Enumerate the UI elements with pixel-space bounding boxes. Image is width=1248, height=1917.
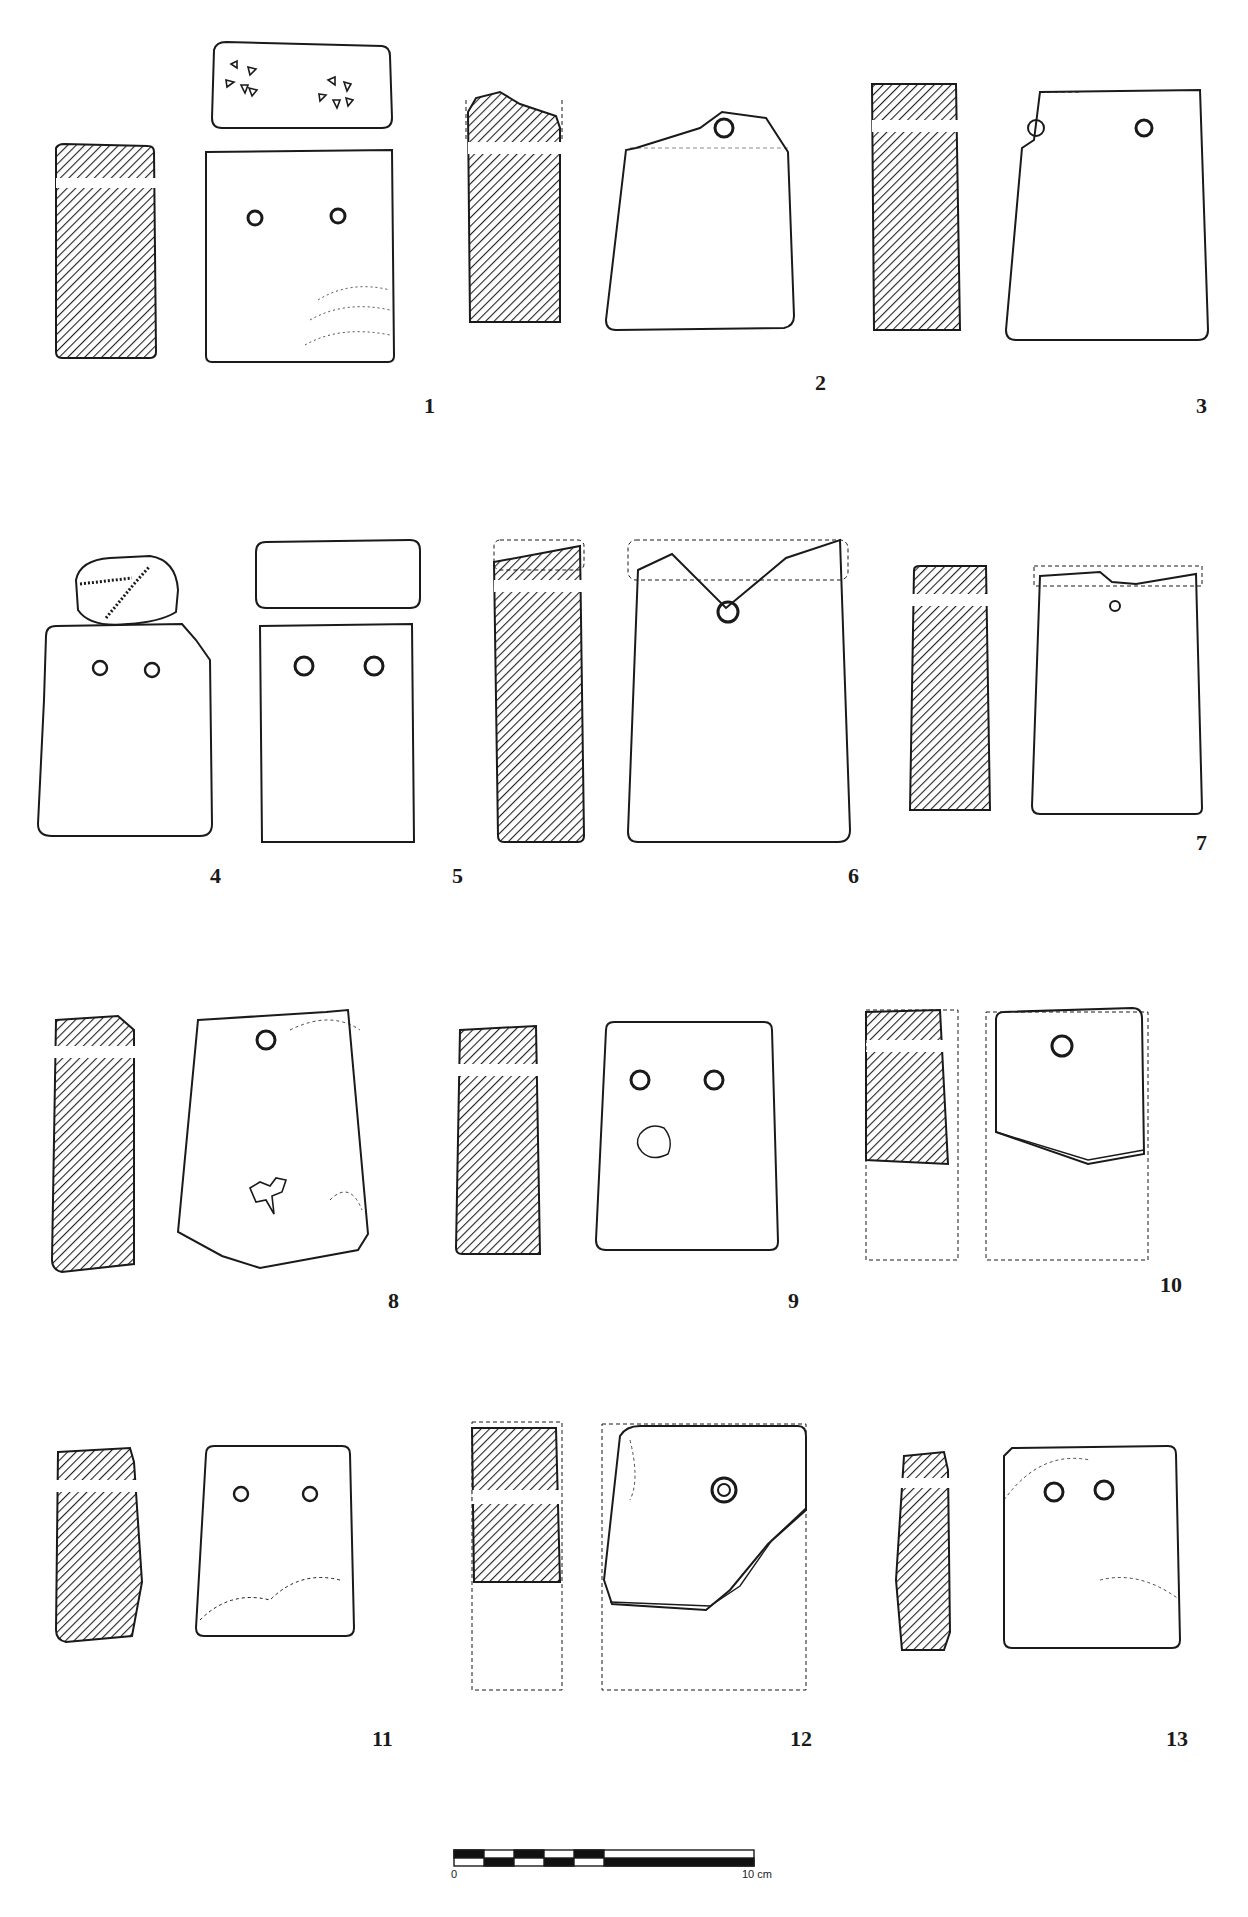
label-object-3: 3 — [1196, 393, 1207, 419]
label-object-11: 11 — [372, 1726, 393, 1752]
scale-start-label: 0 — [451, 1868, 457, 1880]
object-8 — [52, 1010, 368, 1272]
object-2 — [466, 92, 794, 330]
object-11 — [56, 1446, 354, 1642]
label-object-8: 8 — [388, 1288, 399, 1314]
object-13 — [896, 1446, 1180, 1650]
label-object-7: 7 — [1196, 830, 1207, 856]
label-object-9: 9 — [788, 1288, 799, 1314]
label-object-10: 10 — [1160, 1272, 1182, 1298]
label-object-13: 13 — [1166, 1726, 1188, 1752]
label-object-6: 6 — [848, 863, 859, 889]
scale-end-label: 10 cm — [742, 1868, 772, 1880]
label-object-4: 4 — [210, 863, 221, 889]
object-9 — [456, 1022, 778, 1254]
object-5 — [256, 540, 420, 842]
object-1 — [56, 42, 394, 362]
object-12 — [472, 1422, 806, 1690]
label-object-2: 2 — [815, 370, 826, 396]
object-3 — [872, 84, 1208, 340]
label-object-1: 1 — [424, 393, 435, 419]
label-object-5: 5 — [452, 863, 463, 889]
label-object-12: 12 — [790, 1726, 812, 1752]
object-7 — [910, 566, 1202, 814]
scale-bar — [454, 1850, 754, 1866]
plate-drawing — [0, 0, 1248, 1917]
object-4 — [38, 556, 212, 836]
object-10 — [866, 1008, 1148, 1260]
object-6 — [494, 540, 850, 842]
